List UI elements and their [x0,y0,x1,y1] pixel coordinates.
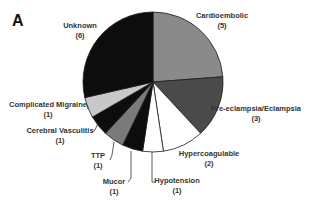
label-count: (1) [154,186,199,196]
label-name: Complicated Migraine [9,100,87,110]
label-mucor: Mucor (1) [103,177,126,197]
label-count: (1) [9,110,87,120]
label-cardioembolic: Cardioembolic (5) [196,11,248,31]
leader-mucor [128,151,131,182]
label-hypercoagulable: Hypercoagulable (2) [179,149,239,169]
label-name: Cerebral Vasculitis [26,126,93,136]
label-name: Cardioembolic [196,11,248,21]
leader-ttp [110,142,114,160]
label-cerebral-vasculitis: Cerebral Vasculitis (1) [26,126,93,146]
label-count: (5) [196,21,248,31]
label-name: Unknown [63,21,97,31]
label-complicated-migraine: Complicated Migraine (1) [9,100,87,120]
label-count: (6) [63,31,97,41]
label-pre-eclampsia: Pre-eclampsia/Eclampsia (3) [211,104,301,124]
label-unknown: Unknown (6) [63,21,97,41]
label-count: (3) [211,114,301,124]
label-count: (1) [103,187,126,197]
label-name: Pre-eclampsia/Eclampsia [211,104,301,114]
label-name: Hypercoagulable [179,149,239,159]
label-count: (1) [91,161,105,171]
label-ttp: TTP (1) [91,151,105,171]
pie-slices [83,12,223,152]
label-name: Hypotension [154,176,199,186]
label-name: Mucor [103,177,126,187]
label-hypotension: Hypotension (1) [154,176,199,196]
label-count: (1) [26,136,93,146]
label-name: TTP [91,151,105,161]
label-count: (2) [179,159,239,169]
